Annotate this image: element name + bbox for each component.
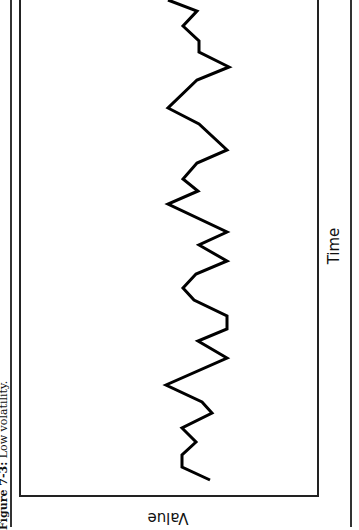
line-series [0, 0, 359, 530]
x-axis-label: Time [325, 228, 343, 265]
y-axis-label: Value [147, 509, 188, 527]
figure-page: Figure 7-3: Low volatility. Time Value [0, 0, 359, 530]
value-line [166, 0, 229, 480]
